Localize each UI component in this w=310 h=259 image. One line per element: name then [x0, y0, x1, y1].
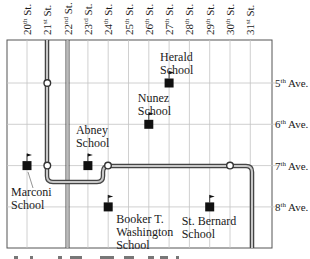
- flag-icon: [88, 154, 93, 157]
- school-marker: [104, 195, 114, 212]
- avenue-label-8: 8th Ave.: [275, 201, 309, 213]
- avenue-label-5: 5th Ave.: [275, 77, 309, 89]
- street-label-25: 25th St.: [123, 4, 135, 35]
- school-label: Booker T.: [116, 212, 164, 226]
- street-label-23: 23rd St.: [82, 3, 94, 35]
- street-label-28: 28th St.: [183, 4, 195, 35]
- school-label: School: [76, 136, 110, 150]
- street-label-20: 20th St.: [21, 4, 33, 35]
- avenue-label-7: 7th Ave.: [275, 160, 309, 172]
- school-label: School: [138, 104, 172, 118]
- street-label-26: 26th St.: [143, 4, 155, 35]
- school-label: Abney: [76, 123, 108, 137]
- school-marker: [83, 154, 93, 171]
- street-labels: 20th St.21st St.22nd St.23rd St.24th St.…: [21, 2, 256, 35]
- avenue-label-6: 6th Ave.: [275, 118, 309, 130]
- flag-icon: [27, 154, 32, 157]
- street-label-29: 29th St.: [204, 4, 216, 35]
- station-marker: [105, 162, 112, 169]
- school-label: Herald: [160, 50, 193, 64]
- avenue-labels: 5th Ave.6th Ave.7th Ave.8th Ave.: [275, 77, 309, 213]
- school-label: Washington: [116, 225, 173, 239]
- city-map: 20th St.21st St.22nd St.23rd St.24th St.…: [0, 0, 310, 259]
- school-label: School: [182, 227, 216, 241]
- school-label: School: [11, 198, 45, 212]
- street-label-21: 21st St.: [41, 4, 53, 35]
- flag-icon: [108, 195, 113, 198]
- street-label-30: 30th St.: [224, 4, 236, 35]
- school-label: Marconi: [11, 185, 52, 199]
- flag-icon: [210, 195, 215, 198]
- school-label: School: [160, 63, 194, 77]
- street-label-24: 24th St.: [102, 4, 114, 35]
- street-label-27: 27th St.: [163, 4, 175, 35]
- street-label-31: 31st St.: [244, 4, 256, 35]
- school-label: St. Bernard: [182, 214, 237, 228]
- school-marker: [23, 154, 33, 171]
- street-label-22: 22nd St.: [62, 2, 74, 35]
- station-marker: [44, 80, 51, 87]
- rail-line-22nd: [66, 40, 69, 248]
- school-label: Nunez: [138, 91, 169, 105]
- school-label: School: [116, 238, 150, 252]
- station-marker: [227, 162, 234, 169]
- school-marker: [205, 195, 215, 212]
- station-marker: [44, 162, 51, 169]
